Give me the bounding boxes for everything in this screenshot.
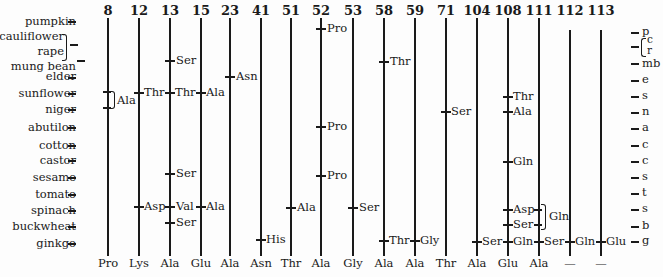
- substitution-tick: [225, 76, 235, 78]
- substitution-tick: [286, 207, 296, 209]
- position-line: [538, 18, 540, 256]
- row-dash: [631, 193, 639, 195]
- substitution-tick: [503, 161, 513, 163]
- substitution-residue: Ser: [513, 217, 533, 231]
- substitution-residue: Ser: [451, 104, 471, 118]
- substitution-residue: Gly: [420, 233, 439, 247]
- substitution-residue: Val: [176, 199, 194, 213]
- consensus-residue: Ala: [221, 256, 240, 270]
- position-label: 15: [192, 3, 210, 18]
- consensus-residue: Pro: [98, 256, 118, 270]
- substitution-residue: Gln: [549, 209, 569, 223]
- substitution-tick: [165, 60, 175, 62]
- row-dash: [631, 177, 639, 179]
- position-label: 8: [103, 3, 112, 18]
- substitution-residue: Ser: [176, 215, 196, 229]
- substitution-residue: Thr: [389, 233, 410, 247]
- substitution-tick: [379, 61, 389, 63]
- substitution-residue: Asp: [513, 202, 535, 216]
- species-abbrev: b: [642, 218, 649, 232]
- row-dash: [631, 145, 639, 147]
- row-dash: [68, 160, 76, 162]
- substitution-tick: [316, 126, 326, 128]
- substitution-residue: Ala: [206, 85, 225, 99]
- row-dash: [631, 128, 639, 130]
- species-label: elder: [46, 69, 76, 83]
- substitution-tick: [134, 206, 144, 208]
- position-label: 23: [221, 3, 239, 18]
- position-line: [600, 30, 602, 256]
- sunflower-niger-brace: [110, 91, 115, 109]
- substitution-tick: [565, 241, 575, 243]
- consensus-residue: Ala: [406, 256, 425, 270]
- row-dash: [631, 32, 639, 34]
- position-label: 113: [587, 3, 614, 18]
- position-line: [476, 18, 478, 256]
- position-line: [229, 18, 231, 256]
- substitution-tick: [441, 111, 451, 113]
- substitution-tick: [165, 92, 175, 94]
- species-abbrev: mb: [642, 56, 660, 70]
- position-line: [320, 18, 322, 256]
- row-dash: [631, 161, 639, 163]
- row-dash: [68, 210, 76, 212]
- position-label: 111: [525, 3, 552, 18]
- position-line: [138, 18, 140, 256]
- cauliflower-rape-brace: [62, 34, 67, 61]
- species-abbrev: s: [642, 88, 648, 102]
- substitution-residue: Ala: [206, 199, 225, 213]
- substitution-residue: Asp: [144, 199, 166, 213]
- substitution-tick: [165, 222, 175, 224]
- consensus-residue: Thr: [436, 256, 457, 270]
- position-label: 108: [494, 3, 521, 18]
- species-abbrev: n: [642, 104, 649, 118]
- row-dash: [68, 21, 76, 23]
- substitution-tick: [503, 111, 513, 113]
- substitution-residue: Thr: [144, 85, 165, 99]
- consensus-residue: Ala: [375, 256, 394, 270]
- position-label: 59: [406, 3, 424, 18]
- spinach-buckwheat-brace: [541, 204, 546, 230]
- species-abbrev: e: [642, 72, 649, 86]
- position-label: 58: [375, 3, 393, 18]
- species-abbrev: s: [642, 169, 648, 183]
- consensus-residue: —: [595, 256, 607, 270]
- substitution-residue: Gln: [513, 234, 533, 248]
- position-line: [352, 18, 354, 256]
- substitution-residue: Gln: [513, 154, 533, 168]
- substitution-residue: Ser: [544, 234, 564, 248]
- c-r-brace: [641, 38, 646, 57]
- position-line: [260, 18, 262, 256]
- row-dash: [631, 209, 639, 211]
- consensus-residue: Ala: [312, 256, 331, 270]
- substitution-residue: Ser: [176, 53, 196, 67]
- substitution-residue: Thr: [175, 85, 196, 99]
- consensus-residue: Ala: [530, 256, 549, 270]
- substitution-tick: [348, 207, 358, 209]
- substitution-residue: Pro: [327, 119, 347, 133]
- row-dash: [68, 177, 76, 179]
- consensus-residue: Ala: [161, 256, 180, 270]
- consensus-residue: Ala: [468, 256, 487, 270]
- consensus-residue: Lys: [129, 256, 149, 270]
- species-label: cauliflower: [0, 29, 64, 43]
- substitution-tick: [503, 96, 513, 98]
- row-dash: [631, 63, 639, 65]
- substitution-residue: Pro: [327, 21, 347, 35]
- substitution-residue: Ser: [176, 166, 196, 180]
- substitution-tick: [196, 92, 206, 94]
- species-label: buckwheat: [12, 219, 76, 233]
- substitution-tick: [196, 206, 206, 208]
- substitution-tick: [503, 241, 513, 243]
- substitution-tick: [503, 224, 513, 226]
- species-abbrev: r: [647, 44, 652, 56]
- consensus-residue: Asn: [250, 256, 272, 270]
- position-line: [569, 30, 571, 256]
- substitution-tick: [316, 28, 326, 30]
- position-label: 13: [161, 3, 179, 18]
- substitution-residue: Gln: [575, 234, 595, 248]
- row-dash: [68, 145, 76, 147]
- row-dash: [68, 77, 76, 79]
- consensus-residue: Glu: [191, 256, 211, 270]
- position-line: [200, 18, 202, 256]
